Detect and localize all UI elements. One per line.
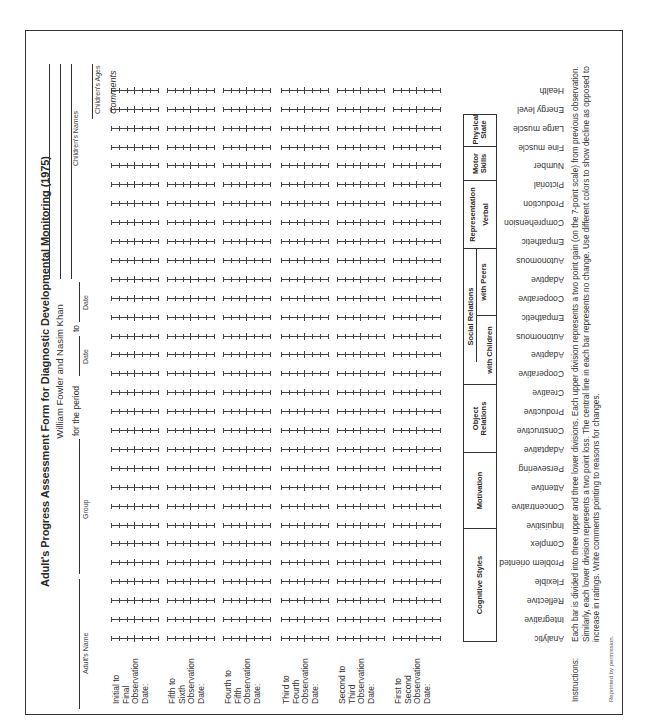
rating-bar[interactable] [223, 503, 271, 510]
rating-bar[interactable] [281, 257, 329, 264]
rating-bar[interactable] [223, 597, 271, 604]
rating-bar[interactable] [167, 597, 215, 604]
rating-bar[interactable] [111, 465, 159, 472]
rating-bar[interactable] [281, 200, 329, 207]
rating-bar[interactable] [223, 238, 271, 245]
rating-bar[interactable] [393, 352, 441, 359]
rating-bar[interactable] [167, 503, 215, 510]
rating-bar[interactable] [167, 522, 215, 529]
rating-bar[interactable] [281, 427, 329, 434]
rating-bar[interactable] [337, 314, 385, 321]
rating-bar[interactable] [281, 144, 329, 151]
rating-bar[interactable] [393, 427, 441, 434]
rating-bar[interactable] [167, 465, 215, 472]
rating-bar[interactable] [167, 541, 215, 548]
rating-bar[interactable] [223, 314, 271, 321]
rating-bar[interactable] [393, 238, 441, 245]
rating-bar[interactable] [337, 503, 385, 510]
rating-bar[interactable] [223, 522, 271, 529]
rating-bar[interactable] [111, 484, 159, 491]
rating-bar[interactable] [281, 87, 329, 94]
rating-bar[interactable] [111, 522, 159, 529]
rating-bar[interactable] [111, 635, 159, 642]
rating-bar[interactable] [167, 616, 215, 623]
rating-bar[interactable] [281, 163, 329, 170]
rating-bar[interactable] [167, 484, 215, 491]
rating-bar[interactable] [393, 200, 441, 207]
rating-bar[interactable] [167, 578, 215, 585]
rating-bar[interactable] [337, 446, 385, 453]
rating-bar[interactable] [111, 389, 159, 396]
rating-bar[interactable] [111, 295, 159, 302]
rating-bar[interactable] [281, 559, 329, 566]
rating-bar[interactable] [337, 352, 385, 359]
rating-bar[interactable] [281, 106, 329, 113]
child-name-line-2[interactable] [60, 64, 61, 279]
rating-bar[interactable] [337, 276, 385, 283]
rating-bar[interactable] [167, 219, 215, 226]
rating-bar[interactable] [223, 465, 271, 472]
rating-bar[interactable] [393, 219, 441, 226]
rating-bar[interactable] [111, 352, 159, 359]
rating-bar[interactable] [223, 257, 271, 264]
rating-bar[interactable] [337, 125, 385, 132]
rating-bar[interactable] [111, 144, 159, 151]
rating-bar[interactable] [167, 181, 215, 188]
rating-bar[interactable] [223, 219, 271, 226]
rating-bar[interactable] [337, 87, 385, 94]
rating-bar[interactable] [111, 200, 159, 207]
rating-bar[interactable] [223, 295, 271, 302]
rating-bar[interactable] [393, 522, 441, 529]
rating-bar[interactable] [337, 200, 385, 207]
rating-bar[interactable] [223, 427, 271, 434]
rating-bar[interactable] [167, 314, 215, 321]
rating-bar[interactable] [111, 238, 159, 245]
rating-bar[interactable] [337, 389, 385, 396]
rating-bar[interactable] [393, 446, 441, 453]
rating-bar[interactable] [393, 125, 441, 132]
rating-bar[interactable] [337, 370, 385, 377]
rating-bar[interactable] [223, 578, 271, 585]
rating-bar[interactable] [111, 314, 159, 321]
rating-bar[interactable] [393, 484, 441, 491]
rating-bar[interactable] [393, 314, 441, 321]
rating-bar[interactable] [393, 333, 441, 340]
rating-bar[interactable] [223, 144, 271, 151]
rating-bar[interactable] [281, 314, 329, 321]
rating-bar[interactable] [111, 541, 159, 548]
rating-bar[interactable] [337, 616, 385, 623]
rating-bar[interactable] [223, 616, 271, 623]
adult-name-line[interactable] [79, 579, 80, 709]
rating-bar[interactable] [393, 635, 441, 642]
rating-bar[interactable] [111, 427, 159, 434]
rating-bar[interactable] [281, 276, 329, 283]
rating-bar[interactable] [337, 597, 385, 604]
rating-bar[interactable] [393, 465, 441, 472]
rating-bar[interactable] [393, 87, 441, 94]
rating-bar[interactable] [223, 389, 271, 396]
rating-bar[interactable] [223, 541, 271, 548]
rating-bar[interactable] [393, 295, 441, 302]
rating-bar[interactable] [223, 181, 271, 188]
rating-bar[interactable] [111, 257, 159, 264]
rating-bar[interactable] [167, 87, 215, 94]
rating-bar[interactable] [337, 257, 385, 264]
rating-bar[interactable] [223, 635, 271, 642]
rating-bar[interactable] [111, 87, 159, 94]
rating-bar[interactable] [281, 370, 329, 377]
rating-bar[interactable] [223, 87, 271, 94]
rating-bar[interactable] [167, 635, 215, 642]
rating-bar[interactable] [281, 408, 329, 415]
rating-bar[interactable] [111, 125, 159, 132]
rating-bar[interactable] [223, 333, 271, 340]
rating-bar[interactable] [337, 238, 385, 245]
rating-bar[interactable] [167, 408, 215, 415]
rating-bar[interactable] [111, 597, 159, 604]
rating-bar[interactable] [393, 578, 441, 585]
rating-bar[interactable] [393, 616, 441, 623]
rating-bar[interactable] [223, 106, 271, 113]
rating-bar[interactable] [111, 276, 159, 283]
rating-bar[interactable] [167, 276, 215, 283]
rating-bar[interactable] [111, 408, 159, 415]
rating-bar[interactable] [167, 352, 215, 359]
